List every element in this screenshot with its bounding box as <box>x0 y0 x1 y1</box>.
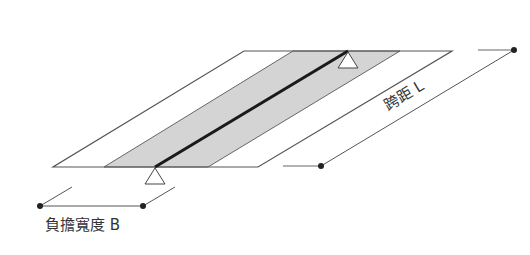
support-triangle-bottom <box>145 168 165 184</box>
beam-tributary-diagram: 跨距 L 負擔寬度 B <box>0 0 530 255</box>
width-label: 負擔寬度 B <box>45 216 120 234</box>
span-label: 跨距 L <box>381 76 428 114</box>
beam-line <box>155 51 348 167</box>
width-dimension <box>37 187 175 209</box>
